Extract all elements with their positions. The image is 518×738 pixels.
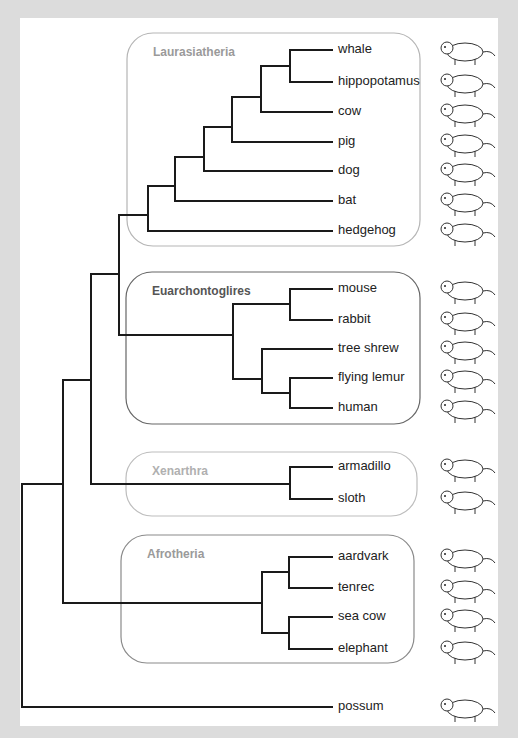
leaf-label: bat: [338, 193, 356, 207]
whale-icon: [441, 42, 495, 65]
leaf-label: rabbit: [338, 312, 371, 326]
leaf-label: cow: [338, 104, 361, 118]
leaf-label: sea cow: [338, 609, 386, 623]
clade-box-laurasiatheria: [127, 33, 420, 246]
leaf-label: elephant: [338, 641, 388, 655]
bat-icon: [441, 193, 495, 216]
leaf-label: tree shrew: [338, 341, 399, 355]
clade-label-xenarthra: Xenarthra: [152, 464, 208, 478]
leaf-label: armadillo: [338, 459, 391, 473]
clade-label-laurasiatheria: Laurasiatheria: [153, 45, 235, 59]
flying-lemur-icon: [441, 370, 495, 393]
pig-icon: [441, 134, 495, 157]
leaf-label: whale: [338, 42, 372, 56]
leaf-label: flying lemur: [338, 370, 404, 384]
rabbit-icon: [441, 312, 495, 335]
cow-icon: [441, 104, 495, 127]
sea-cow-icon: [441, 609, 495, 632]
possum-icon: [441, 699, 495, 722]
phylogenetic-tree: [0, 0, 518, 738]
leaf-label: possum: [338, 699, 384, 713]
leaf-label: dog: [338, 163, 360, 177]
armadillo-icon: [441, 459, 495, 482]
tenrec-icon: [441, 580, 495, 603]
clade-label-afrotheria: Afrotheria: [147, 547, 204, 561]
mouse-icon: [441, 281, 495, 304]
leaf-label: hedgehog: [338, 223, 396, 237]
sloth-icon: [441, 491, 495, 514]
human-baby-icon: [441, 400, 495, 423]
leaf-label: mouse: [338, 281, 377, 295]
aardvark-icon: [441, 549, 495, 572]
leaf-label: human: [338, 400, 378, 414]
dog-icon: [441, 163, 495, 186]
hippopotamus-icon: [441, 74, 495, 97]
elephant-icon: [441, 641, 495, 664]
leaf-label: pig: [338, 134, 355, 148]
hedgehog-icon: [441, 223, 495, 246]
clade-label-euarchontoglires: Euarchontoglires: [152, 284, 251, 298]
leaf-label: hippopotamus: [338, 74, 420, 88]
leaf-label: tenrec: [338, 580, 374, 594]
tree-shrew-icon: [441, 341, 495, 364]
leaf-label: aardvark: [338, 549, 389, 563]
leaf-label: sloth: [338, 491, 365, 505]
